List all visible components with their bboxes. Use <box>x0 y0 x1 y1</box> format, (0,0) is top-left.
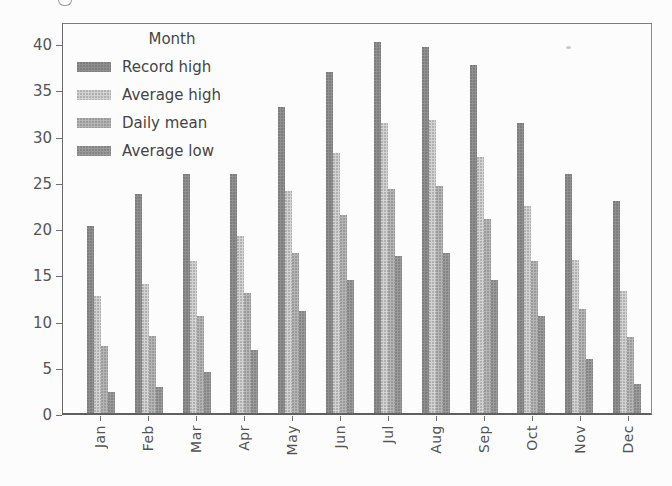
bar-aug-daily-mean <box>436 186 443 413</box>
legend-label: Average low <box>122 142 214 160</box>
scan-artifact <box>58 0 72 6</box>
bar-group-aug <box>422 24 450 413</box>
x-tick-label: Dec <box>620 425 636 454</box>
x-tick-cell-feb: Feb <box>134 416 162 482</box>
bar-group-jul <box>374 24 402 413</box>
y-tick-label: 15 <box>12 267 52 285</box>
x-tick-mark <box>100 416 101 421</box>
legend-label: Daily mean <box>122 114 207 132</box>
bar-dec-record-high <box>613 201 620 413</box>
x-tick-cell-mar: Mar <box>182 416 210 482</box>
bar-group-sep <box>470 24 498 413</box>
bar-sep-daily-mean <box>484 219 491 413</box>
bar-sep-average-high <box>477 157 484 413</box>
bar-oct-daily-mean <box>531 261 538 413</box>
legend: Month Record high Average high Daily mea… <box>77 30 257 165</box>
bar-aug-average-low <box>443 253 450 413</box>
x-tick-label: Jun <box>332 425 348 448</box>
x-tick-mark <box>148 416 149 421</box>
bar-apr-record-high <box>230 174 237 413</box>
x-tick-label: Feb <box>140 425 156 451</box>
bar-mar-average-low <box>204 372 211 413</box>
bar-jun-daily-mean <box>340 215 347 413</box>
bar-jan-average-low <box>108 392 115 413</box>
x-tick-mark <box>196 416 197 421</box>
legend-entry-average-low: Average low <box>77 137 257 165</box>
bar-jan-average-high <box>94 296 101 413</box>
y-tick-label: 5 <box>12 360 52 378</box>
bar-feb-daily-mean <box>149 336 156 413</box>
bar-jan-record-high <box>87 226 94 413</box>
legend-entry-daily-mean: Daily mean <box>77 109 257 137</box>
x-tick-mark <box>484 416 485 421</box>
legend-entry-average-high: Average high <box>77 81 257 109</box>
x-tick-mark <box>532 416 533 421</box>
x-tick-mark <box>388 416 389 421</box>
bar-feb-average-low <box>156 387 163 413</box>
bar-group-oct <box>517 24 545 413</box>
bar-oct-average-high <box>524 206 531 413</box>
bar-jul-average-high <box>381 123 388 413</box>
x-tick-label: Apr <box>236 425 252 451</box>
x-tick-cell-jul: Jul <box>374 416 402 482</box>
bar-sep-record-high <box>470 65 477 413</box>
x-tick-cell-jun: Jun <box>326 416 354 482</box>
x-tick-cell-oct: Oct <box>518 416 546 482</box>
x-tick-cell-jan: Jan <box>86 416 114 482</box>
bar-mar-average-high <box>190 261 197 413</box>
x-tick-cell-nov: Nov <box>566 416 594 482</box>
bar-oct-average-low <box>538 316 545 413</box>
legend-entry-record-high: Record high <box>77 53 257 81</box>
bar-jun-record-high <box>326 72 333 413</box>
x-tick-label: Mar <box>188 425 204 453</box>
bar-nov-average-low <box>586 359 593 413</box>
y-tick-label: 0 <box>12 406 52 424</box>
daily-mean-swatch-icon <box>77 118 111 128</box>
x-tick-mark <box>436 416 437 421</box>
bar-feb-record-high <box>135 194 142 413</box>
x-tick-mark <box>580 416 581 421</box>
y-tick-label: 25 <box>12 175 52 193</box>
x-tick-label: Jan <box>92 425 108 448</box>
x-tick-cell-aug: Aug <box>422 416 450 482</box>
bar-apr-average-low <box>251 350 258 413</box>
bar-apr-average-high <box>237 236 244 413</box>
bar-may-average-high <box>285 191 292 413</box>
bar-dec-average-high <box>620 291 627 413</box>
bar-aug-average-high <box>429 120 436 413</box>
bar-mar-daily-mean <box>197 316 204 413</box>
y-tick-label: 10 <box>12 314 52 332</box>
bar-jul-record-high <box>374 42 381 413</box>
x-tick-cell-may: May <box>278 416 306 482</box>
legend-label: Average high <box>122 86 221 104</box>
bar-group-jun <box>326 24 354 413</box>
bar-nov-average-high <box>572 260 579 413</box>
bar-dec-average-low <box>634 384 641 413</box>
x-tick-mark <box>340 416 341 421</box>
x-tick-label: May <box>284 425 300 455</box>
x-axis: JanFebMarAprMayJunJulAugSepOctNovDec <box>62 416 652 482</box>
x-tick-label: Nov <box>572 425 588 454</box>
legend-label: Record high <box>122 58 211 76</box>
bar-jan-daily-mean <box>101 346 108 413</box>
bar-may-daily-mean <box>292 253 299 413</box>
y-tick-label: 30 <box>12 129 52 147</box>
bar-jul-average-low <box>395 256 402 413</box>
bar-nov-daily-mean <box>579 309 586 413</box>
bar-sep-average-low <box>491 280 498 413</box>
record-high-swatch-icon <box>77 62 111 72</box>
bar-group-nov <box>565 24 593 413</box>
x-tick-label: Oct <box>524 425 540 451</box>
average-low-swatch-icon <box>77 146 111 156</box>
bar-apr-daily-mean <box>244 293 251 413</box>
x-tick-label: Sep <box>476 425 492 453</box>
x-tick-mark <box>628 416 629 421</box>
figure: 0510152025303540 Month Record high Avera… <box>0 0 672 486</box>
y-tick-label: 20 <box>12 221 52 239</box>
x-tick-cell-sep: Sep <box>470 416 498 482</box>
bar-aug-record-high <box>422 47 429 413</box>
bar-oct-record-high <box>517 123 524 413</box>
bar-jun-average-high <box>333 153 340 413</box>
legend-title: Month <box>77 30 257 48</box>
y-tick-label: 35 <box>12 82 52 100</box>
